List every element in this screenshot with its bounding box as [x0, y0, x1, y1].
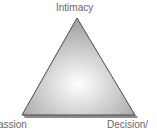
vertex-label-intimacy: Intimacy — [56, 3, 93, 13]
vertex-label-passion: assion — [0, 120, 27, 130]
vertex-label-decision: Decision/ — [107, 120, 148, 130]
triangle-diagram — [0, 0, 157, 133]
triangle-shape — [22, 18, 135, 115]
